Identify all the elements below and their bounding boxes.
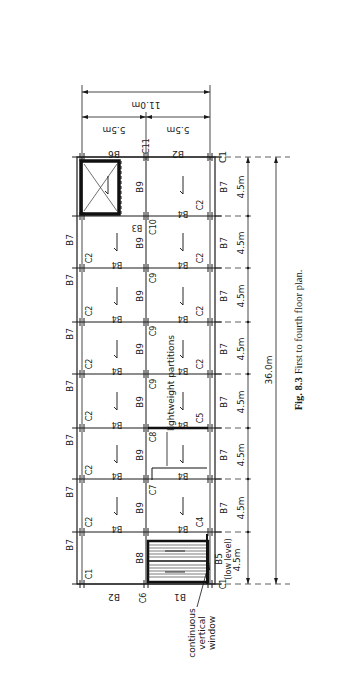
svg-text:4.5m: 4.5m [236, 231, 246, 254]
window-note-2: vertical [197, 616, 207, 650]
svg-text:4.5m: 4.5m [236, 337, 246, 360]
svg-text:4.5m: 4.5m [232, 548, 242, 571]
partition-note: lightweight partitions [166, 335, 176, 431]
svg-text:C2: C2 [85, 517, 94, 528]
svg-text:B9: B9 [135, 343, 145, 355]
svg-text:B4: B4 [112, 524, 123, 533]
stair [148, 534, 208, 584]
svg-text:B4: B4 [178, 314, 189, 323]
label-b6: B6 [108, 149, 120, 159]
svg-text:4.5m: 4.5m [236, 443, 246, 466]
left-beam-labels: B7 B7 B7 B7 B7 B7 B7 [65, 234, 75, 551]
bay-dimension-labels: 4.5m 4.5m 4.5m 4.5m 4.5m 4.5m 4.5m 4.5m [232, 175, 246, 571]
svg-text:B4: B4 [112, 471, 123, 480]
label-b3: B3 [132, 223, 143, 232]
svg-text:C2: C2 [85, 253, 94, 264]
right-beam-labels: B7 B7 B7 B7 B7 B7 B7 [219, 181, 229, 514]
svg-text:B4: B4 [112, 420, 123, 429]
svg-text:B7: B7 [219, 181, 229, 193]
svg-text:B7: B7 [219, 290, 229, 302]
label-b2-top: B2 [172, 149, 184, 159]
svg-text:B9: B9 [135, 449, 145, 461]
svg-text:C5: C5 [196, 413, 205, 424]
svg-text:C2: C2 [85, 411, 94, 422]
svg-text:B9: B9 [135, 502, 145, 514]
window-note-1: continuous [187, 608, 197, 658]
svg-text:B9: B9 [135, 237, 145, 249]
label-c11: C11 [142, 138, 151, 154]
svg-text:C2: C2 [196, 359, 205, 370]
svg-text:B4: B4 [178, 524, 189, 533]
svg-text:B7: B7 [65, 274, 75, 286]
label-c6: C6 [139, 593, 148, 604]
overall-length-label: 36.0m [264, 356, 274, 385]
half-width-left-label: 5.5m [102, 125, 125, 135]
svg-text:B7: B7 [219, 343, 229, 355]
svg-text:B9: B9 [135, 290, 145, 302]
svg-text:4.5m: 4.5m [236, 175, 246, 198]
svg-text:C8: C8 [149, 432, 158, 443]
svg-text:C2: C2 [85, 306, 94, 317]
svg-text:B7: B7 [219, 449, 229, 461]
svg-text:C2: C2 [85, 359, 94, 370]
svg-text:B7: B7 [65, 234, 75, 246]
svg-text:C7: C7 [149, 485, 158, 496]
figure-caption: Fig. 8.3First to fourth floor plan. [293, 270, 304, 411]
svg-text:B7: B7 [65, 486, 75, 498]
svg-text:B4: B4 [112, 366, 123, 375]
lift-shaft [81, 161, 121, 214]
svg-text:C9: C9 [149, 326, 158, 337]
svg-text:B7: B7 [219, 502, 229, 514]
overall-width-label: 11.0m [132, 100, 161, 110]
svg-text:B4: B4 [178, 420, 189, 429]
label-b5: B5 [214, 553, 224, 565]
svg-text:C2: C2 [196, 306, 205, 317]
svg-text:B7: B7 [65, 539, 75, 551]
mid-column-labels: C10 C9 C9 C9 C8 C7 [149, 219, 158, 495]
svg-text:B8: B8 [135, 552, 145, 564]
svg-text:C9: C9 [149, 379, 158, 390]
svg-text:C2: C2 [196, 253, 205, 264]
svg-text:B9: B9 [135, 181, 145, 193]
left-column-labels: C2 C2 C2 C2 C2 C2 C1 [85, 253, 94, 580]
building-outline [77, 157, 215, 584]
svg-text:B4: B4 [112, 314, 123, 323]
svg-text:B7: B7 [65, 380, 75, 392]
caption-number: Fig. 8.3 [293, 377, 304, 410]
half-width-right-label: 5.5m [166, 125, 189, 135]
svg-text:B7: B7 [65, 328, 75, 340]
svg-text:B4: B4 [178, 471, 189, 480]
svg-text:B4: B4 [178, 209, 189, 218]
floor-plan-drawing: 11.0m 5.5m 5.5m [0, 0, 361, 688]
window-note-3: window [207, 616, 217, 650]
b4-labels: B4 B4 B4 B4 B4 B4 B4 B4 B4 B4 B4 B4 B4 [112, 209, 189, 533]
caption-text: First to fourth floor plan. [293, 270, 304, 375]
svg-text:C10: C10 [149, 219, 158, 235]
label-b1: B1 [174, 592, 186, 602]
svg-text:C1: C1 [85, 569, 94, 580]
svg-text:B7: B7 [219, 237, 229, 249]
svg-text:B7: B7 [65, 434, 75, 446]
svg-text:B4: B4 [178, 260, 189, 269]
label-b2-bottom: B2 [108, 592, 120, 602]
label-c1-top: C1 [218, 151, 228, 163]
svg-text:B4: B4 [178, 366, 189, 375]
svg-text:4.5m: 4.5m [236, 496, 246, 519]
svg-text:4.5m: 4.5m [236, 284, 246, 307]
svg-text:C4: C4 [196, 517, 205, 528]
svg-text:4.5m: 4.5m [236, 390, 246, 413]
svg-text:C2: C2 [85, 465, 94, 476]
svg-text:B7: B7 [219, 396, 229, 408]
svg-text:B9: B9 [135, 396, 145, 408]
svg-text:C2: C2 [196, 200, 205, 211]
svg-text:C9: C9 [149, 273, 158, 284]
svg-text:B4: B4 [112, 260, 123, 269]
